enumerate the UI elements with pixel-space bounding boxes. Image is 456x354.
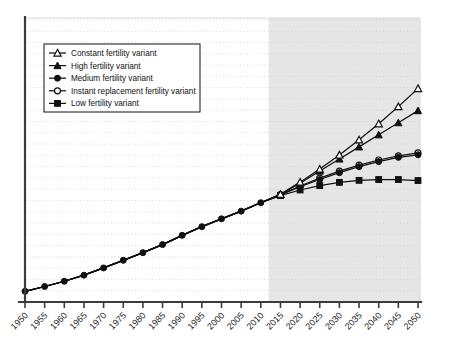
marker-square-filled: [356, 177, 362, 183]
x-tick-label: 1970: [87, 310, 108, 331]
legend-item-4[interactable]: Instant replacement fertility variant: [49, 87, 196, 96]
x-tick-label: 1995: [186, 310, 207, 331]
marker-circle-filled: [356, 164, 362, 170]
x-tick-label: 2000: [205, 310, 226, 331]
x-tick-label: 2005: [225, 310, 246, 331]
marker-square-filled: [55, 101, 61, 107]
x-tick-label: 2045: [382, 310, 403, 331]
x-tick-label: 2035: [343, 310, 364, 331]
marker-circle-filled: [317, 177, 323, 183]
marker-circle-filled: [55, 75, 61, 81]
marker-circle-open: [55, 88, 61, 94]
legend: Constant fertility variantHigh fertility…: [44, 44, 200, 112]
x-tick-label: 1985: [146, 310, 167, 331]
population-projection-chart: 1950195519601965197019751980198519901995…: [0, 0, 456, 354]
marker-square-filled: [317, 183, 323, 189]
marker-circle-filled: [336, 170, 342, 176]
x-tick-label: 2050: [402, 310, 423, 331]
x-tick-label: 1975: [107, 310, 128, 331]
x-tick-label: 1960: [48, 310, 69, 331]
x-axis-ticks: 1950195519601965197019751980198519901995…: [9, 302, 423, 332]
x-tick-label: 1980: [127, 310, 148, 331]
x-tick-label: 1965: [68, 310, 89, 331]
legend-label: Instant replacement fertility variant: [71, 87, 196, 96]
chart-canvas: 1950195519601965197019751980198519901995…: [0, 0, 456, 354]
x-tick-label: 2025: [303, 310, 324, 331]
marker-circle-filled: [415, 152, 421, 158]
x-tick-label: 2040: [362, 310, 383, 331]
marker-square-filled: [376, 177, 382, 183]
marker-square-filled: [337, 179, 343, 185]
x-tick-label: 2010: [244, 310, 265, 331]
x-tick-label: 2015: [264, 310, 285, 331]
marker-square-filled: [415, 178, 421, 184]
x-tick-label: 1990: [166, 310, 187, 331]
x-tick-label: 2030: [323, 310, 344, 331]
x-tick-label: 1955: [28, 310, 49, 331]
legend-label: Constant fertility variant: [71, 49, 157, 58]
marker-square-filled: [395, 177, 401, 183]
marker-circle-filled: [376, 159, 382, 165]
legend-label: Low fertility variant: [71, 99, 140, 108]
marker-circle-filled: [395, 154, 401, 160]
x-tick-label: 2020: [284, 310, 305, 331]
legend-label: High fertility variant: [71, 62, 141, 71]
x-tick-label: 1950: [9, 310, 30, 331]
legend-label: Medium fertility variant: [71, 74, 154, 83]
